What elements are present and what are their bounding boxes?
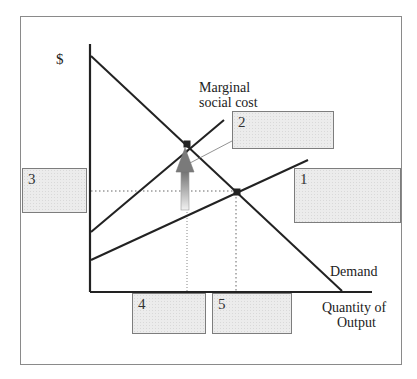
- answer-box-1[interactable]: 1: [294, 168, 401, 223]
- answer-box-5[interactable]: 5: [212, 293, 292, 334]
- answer-box-4[interactable]: 4: [132, 293, 206, 334]
- private-marginal-cost-curve: [91, 160, 308, 260]
- answer-box-3-number: 3: [28, 171, 36, 188]
- answer-box-2-number: 2: [238, 114, 246, 131]
- x-axis-label-line1: Quantity of: [322, 300, 386, 315]
- marginal-social-cost-label-line2: social cost: [199, 95, 258, 110]
- y-axis-label: $: [56, 52, 64, 67]
- answer-box-4-number: 4: [138, 296, 146, 313]
- demand-label: Demand: [330, 264, 377, 279]
- answer-box-3[interactable]: 3: [22, 168, 87, 213]
- answer-box-5-number: 5: [218, 296, 226, 313]
- social-optimum-point: [184, 141, 191, 148]
- marginal-social-cost-label-line1: Marginal: [199, 80, 250, 95]
- answer-box-2[interactable]: 2: [232, 111, 334, 149]
- marginal-social-cost-curve: [91, 120, 224, 232]
- x-axis-label-line2: Output: [337, 315, 376, 330]
- market-equilibrium-point: [234, 189, 241, 196]
- answer-box-1-number: 1: [300, 171, 308, 188]
